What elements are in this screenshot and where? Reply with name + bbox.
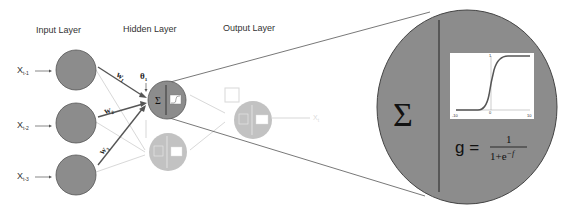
faint-connections: Xt — [96, 70, 320, 172]
bias-theta: θ1 — [140, 71, 148, 82]
zoomed-neuron: Σ -10 0 10 1 g = 1 1+e−f — [377, 10, 557, 204]
weight-w2: w2 — [103, 104, 115, 117]
svg-text:Xt-1: Xt-1 — [17, 65, 29, 76]
svg-text:g =: g = — [455, 138, 479, 157]
input-x2: Xt-2 — [17, 120, 52, 131]
hidden-neuron: Σ — [148, 81, 186, 119]
svg-text:-10: -10 — [452, 113, 459, 118]
weight-w3: w3 — [97, 143, 112, 157]
input-node-2 — [56, 103, 96, 143]
hidden-neuron-2 — [149, 133, 187, 171]
output-neuron — [234, 101, 272, 139]
output-layer-title: Output Layer — [223, 23, 275, 33]
input-x1: Xt-1 — [17, 65, 52, 76]
hidden-layer-title: Hidden Layer — [123, 24, 177, 34]
svg-text:Xt-3: Xt-3 — [17, 171, 29, 182]
zoom-sum-symbol: Σ — [393, 96, 413, 133]
sigmoid-plot: -10 0 10 1 — [450, 53, 534, 119]
input-node-1 — [56, 50, 96, 90]
input-x3: Xt-3 — [17, 171, 52, 182]
svg-text:Xt-2: Xt-2 — [17, 120, 29, 131]
input-node-3 — [56, 155, 96, 195]
weight-w1: w1 — [114, 69, 128, 83]
neuron-sigmoid-icon — [170, 95, 181, 104]
svg-text:1: 1 — [506, 133, 512, 145]
output-label: Xt — [313, 114, 320, 123]
neuron-sum-symbol: Σ — [155, 95, 161, 106]
neural-network-diagram: Input Layer Hidden Layer Output Layer Xt… — [0, 0, 577, 215]
input-layer-title: Input Layer — [36, 25, 81, 35]
svg-text:10: 10 — [527, 113, 532, 118]
